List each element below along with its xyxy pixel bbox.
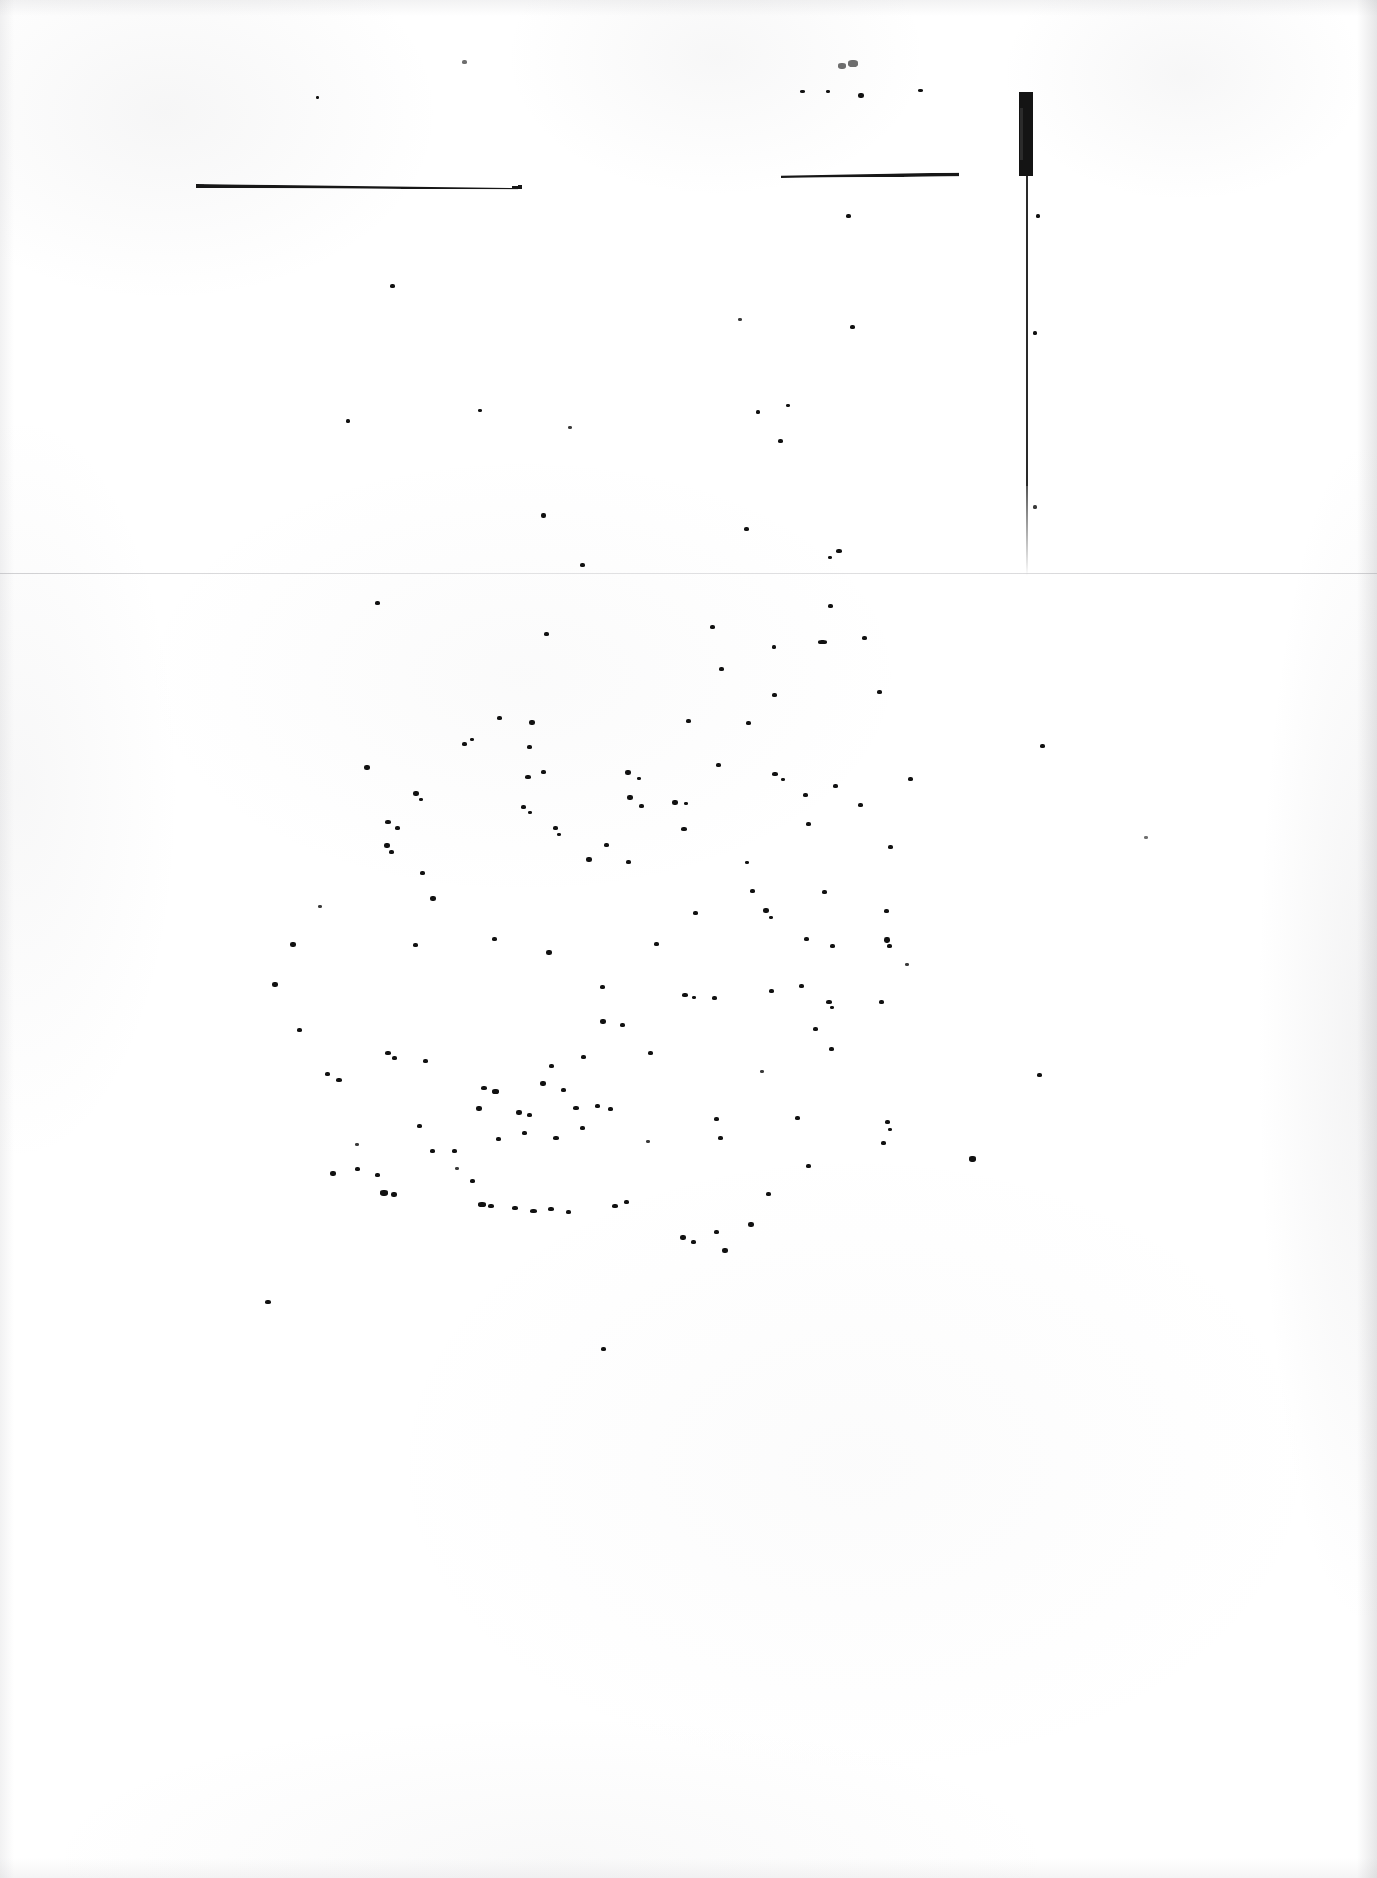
ink-speck [750, 889, 755, 893]
ink-speck [763, 908, 769, 913]
ink-speck [384, 843, 390, 848]
ink-speck [492, 937, 497, 941]
page-edge-shadow-bottom [0, 1858, 1377, 1878]
ink-speck [637, 777, 641, 780]
ink-speck [336, 1078, 342, 1082]
ink-speck [419, 798, 423, 801]
ink-speck [799, 984, 804, 988]
ink-speck [521, 805, 526, 809]
ink-speck [553, 1136, 559, 1140]
ink-speck [413, 943, 418, 947]
ink-speck [316, 96, 319, 99]
ink-speck [714, 1230, 719, 1234]
ink-speck [887, 944, 892, 948]
ink-speck [330, 1171, 336, 1176]
ink-speck [746, 721, 751, 725]
ink-speck [639, 804, 644, 808]
ink-speck [272, 982, 278, 987]
ink-speck [1036, 214, 1040, 218]
ink-speck [781, 778, 785, 781]
ink-speck [375, 1173, 380, 1177]
ink-speck [512, 1206, 518, 1210]
ink-speck [888, 845, 893, 849]
vertical-bar-thick [1019, 92, 1033, 176]
ink-speck [744, 527, 749, 531]
ink-speck [877, 690, 882, 694]
ink-speck [566, 1210, 571, 1214]
ink-speck [786, 404, 790, 407]
ink-speck [557, 833, 561, 836]
ink-speck [455, 1167, 459, 1170]
ink-speck [553, 826, 558, 830]
ink-speck [478, 409, 482, 412]
ink-speck [1144, 836, 1148, 839]
ink-speck [544, 632, 549, 636]
ink-speck [818, 640, 827, 644]
ink-speck [1037, 1073, 1042, 1077]
ink-speck [769, 989, 774, 993]
ink-speck [681, 827, 687, 831]
ink-speck [265, 1300, 271, 1304]
scanned-page [0, 0, 1377, 1878]
ink-speck [549, 1064, 554, 1068]
ink-speck [627, 795, 633, 800]
ink-speck [527, 1113, 532, 1117]
ink-speck [527, 745, 532, 749]
ink-speck [806, 822, 811, 826]
ink-speck [452, 1149, 457, 1153]
ink-speck [608, 1107, 613, 1111]
page-fold-divider [0, 573, 1377, 574]
ink-speck [595, 1104, 600, 1108]
ink-speck [380, 1190, 388, 1196]
ink-speck [600, 985, 605, 989]
ink-speck [862, 636, 867, 640]
ink-speck [885, 1120, 890, 1124]
ink-speck [1033, 505, 1037, 509]
ink-speck [795, 1116, 800, 1120]
horizontal-rule-right [781, 173, 959, 178]
ink-speck [654, 942, 659, 946]
ink-speck [672, 800, 678, 805]
ink-speck [680, 1235, 686, 1240]
ink-speck [318, 905, 322, 908]
ink-speck [778, 439, 783, 443]
ink-speck [478, 1202, 486, 1207]
ink-speck [648, 1051, 653, 1055]
ink-speck [385, 1051, 391, 1055]
ink-speck [828, 556, 832, 559]
ink-speck [772, 693, 777, 697]
ink-speck [745, 861, 749, 864]
ink-speck [496, 1137, 501, 1141]
ink-speck [738, 318, 742, 321]
ink-speck [462, 742, 467, 746]
ink-speck [826, 90, 830, 93]
ink-speck [884, 909, 889, 913]
ink-speck [712, 996, 717, 1000]
ink-speck [624, 1200, 629, 1204]
ink-speck [846, 214, 851, 218]
ink-speck [530, 1209, 537, 1213]
ink-speck [492, 1089, 499, 1094]
ink-speck [804, 937, 809, 941]
ink-speck [600, 1019, 606, 1024]
horizontal-rule-left [196, 184, 518, 190]
ink-speck [612, 1204, 618, 1208]
ink-speck [881, 1141, 886, 1145]
ink-speck [413, 791, 419, 796]
ink-speck [813, 1027, 818, 1031]
page-edge-shadow-top [0, 0, 1377, 16]
ink-speck [476, 1106, 482, 1111]
ink-speck [830, 1006, 834, 1009]
ink-speck [756, 410, 760, 414]
ink-speck [803, 793, 808, 797]
ink-speck [620, 1023, 625, 1027]
ink-speck [722, 1248, 728, 1253]
ink-speck [364, 765, 370, 770]
ink-speck [561, 1088, 566, 1092]
ink-speck [822, 890, 827, 894]
ink-speck [529, 720, 535, 725]
ink-speck [838, 63, 846, 69]
ink-dot-rule-end [518, 185, 522, 189]
ink-speck [710, 625, 715, 629]
ink-speck [769, 916, 773, 919]
